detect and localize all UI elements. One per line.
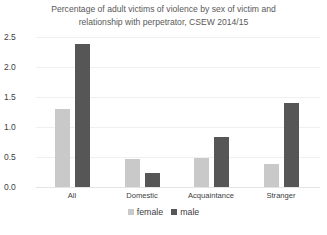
legend-item-female: female (128, 207, 163, 217)
y-tick-label: 0.5 (4, 152, 26, 162)
y-tick-label: 1.0 (4, 122, 26, 132)
x-tick-label: Stranger (241, 191, 321, 200)
chart-title-line-2: relationship with perpetrator, CSEW 2014… (0, 16, 327, 29)
bar-male-stranger (284, 103, 299, 187)
gridline (36, 37, 320, 38)
bar-female-acquaintance (194, 158, 209, 187)
chart-title: Percentage of adult victims of violence … (0, 3, 327, 29)
bar-male-acquaintance (214, 137, 229, 187)
y-tick-label: 1.5 (4, 92, 26, 102)
legend-swatch-female (128, 209, 134, 215)
bar-female-all (55, 109, 70, 187)
y-tick-label: 0.0 (4, 182, 26, 192)
bar-female-stranger (264, 164, 279, 187)
x-tick-label: Domestic (102, 191, 182, 200)
legend-swatch-male (171, 209, 177, 215)
y-tick-label: 2.5 (4, 32, 26, 42)
x-axis-line (36, 187, 320, 188)
bar-male-all (75, 44, 90, 187)
bar-male-domestic (145, 173, 160, 187)
chart-legend: female male (0, 207, 327, 217)
bar-female-domestic (125, 159, 140, 187)
x-tick-label: All (32, 191, 112, 200)
chart-title-line-1: Percentage of adult victims of violence … (0, 3, 327, 16)
y-tick-label: 2.0 (4, 62, 26, 72)
legend-label-female: female (137, 207, 163, 217)
x-tick-label: Acquaintance (171, 191, 251, 200)
legend-label-male: male (180, 207, 199, 217)
legend-item-male: male (171, 207, 199, 217)
